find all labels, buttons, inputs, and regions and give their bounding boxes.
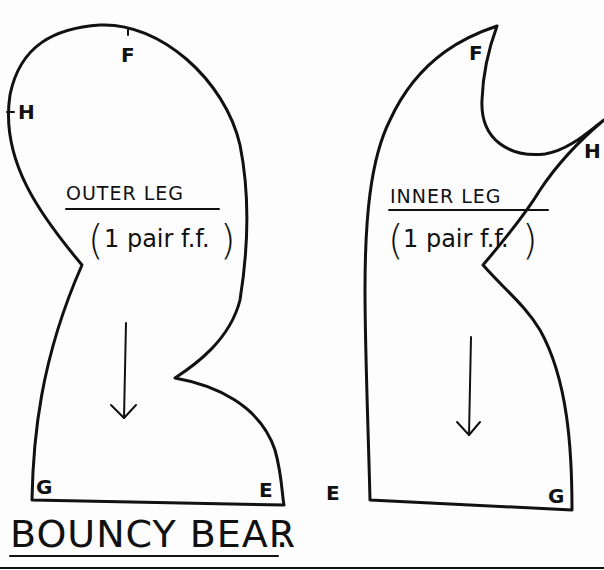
inner-leg-title: INNER LEG [390, 185, 502, 207]
inner-point-g: G [548, 484, 564, 508]
outer-point-e: E [259, 478, 273, 502]
inner-point-f: F [469, 41, 483, 65]
outer-open-paren: ( [88, 217, 104, 263]
outer-leg-title: OUTER LEG [66, 182, 184, 204]
inner-point-e: E [326, 481, 340, 505]
pattern-title-period: . [276, 512, 289, 556]
outer-grain-arrow-icon [111, 323, 136, 418]
outer-point-h: H [18, 100, 35, 124]
inner-point-h: H [584, 139, 601, 163]
outer-leg-quantity: 1 pair f.f. [104, 225, 210, 253]
outer-close-paren: ) [220, 217, 236, 263]
outer-point-g: G [36, 475, 52, 499]
pattern-sheet: F H G E OUTER LEG ( 1 pair f.f. ) F H E … [0, 0, 604, 570]
inner-close-paren: ) [522, 217, 538, 263]
outer-leg-outline [8, 25, 284, 505]
pattern-drawing: F H G E OUTER LEG ( 1 pair f.f. ) F H E … [0, 0, 604, 570]
pattern-title: BOUNCY BEAR [10, 512, 296, 556]
inner-leg-outline [365, 26, 604, 510]
outer-leg-piece: F H G E OUTER LEG ( 1 pair f.f. ) [7, 25, 284, 505]
inner-leg-piece: F H E G INNER LEG ( 1 pair f.f. ) [326, 26, 604, 510]
inner-grain-arrow-icon [457, 337, 480, 435]
outer-point-f: F [121, 43, 135, 67]
inner-open-paren: ( [388, 217, 404, 263]
inner-leg-quantity: 1 pair f.f. [403, 225, 509, 253]
